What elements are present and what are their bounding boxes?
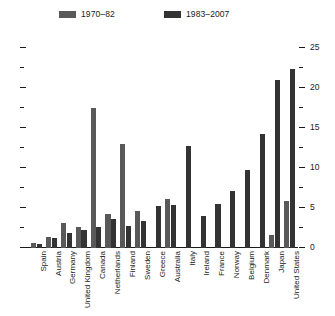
x-axis-label: Japan [278, 251, 286, 273]
bar [284, 201, 289, 248]
bar [31, 243, 36, 248]
bar [111, 219, 116, 248]
bar [135, 211, 140, 248]
x-axis-label: United States [293, 251, 301, 299]
bar [67, 233, 72, 248]
bar [186, 146, 191, 248]
bar [260, 134, 265, 248]
bar-series-container [0, 0, 335, 248]
x-axis-label: Denmark [263, 251, 271, 283]
bar [46, 237, 51, 248]
x-axis-label: Spain [40, 251, 48, 271]
bar [290, 69, 295, 248]
x-axis-label: Belgium [248, 251, 256, 280]
bar [245, 170, 250, 248]
bar [201, 216, 206, 248]
bar [37, 244, 42, 248]
bar [269, 235, 274, 248]
bar [275, 80, 280, 248]
x-axis-label: Germany [69, 251, 77, 284]
bar [165, 199, 170, 248]
bar [171, 205, 176, 248]
x-axis-label: Austria [55, 251, 63, 276]
bar [96, 227, 101, 248]
bar [91, 108, 96, 248]
x-axis-label: Netherlands [114, 251, 122, 294]
bar [126, 226, 131, 248]
bar-chart: 1970–82 1983–2007 0510152025 SpainAustri… [0, 0, 335, 316]
bar [76, 227, 81, 248]
bar [156, 206, 161, 248]
bar [61, 223, 66, 248]
bar [81, 230, 86, 248]
x-axis-label: Finland [129, 251, 137, 277]
plot-area: 0510152025 SpainAustriaGermanyUnited Kin… [0, 0, 335, 316]
bar [141, 221, 146, 248]
x-axis-label: United Kingdom [84, 251, 92, 308]
x-axis-label: Greece [159, 251, 167, 277]
x-axis-label: Italy [189, 251, 197, 266]
x-axis-label: Canada [99, 251, 107, 279]
bar [215, 204, 220, 248]
x-axis-category-labels: SpainAustriaGermanyUnited KingdomCanadaN… [0, 249, 335, 316]
x-axis-label: Norway [233, 251, 241, 278]
bar [105, 214, 110, 248]
bar [52, 238, 57, 248]
x-axis-label: Sweden [144, 251, 152, 280]
x-axis-label: Australia [174, 251, 182, 282]
x-axis-label: Ireland [203, 251, 211, 275]
bar [230, 191, 235, 248]
x-axis-label: France [218, 251, 226, 276]
bar [120, 144, 125, 248]
